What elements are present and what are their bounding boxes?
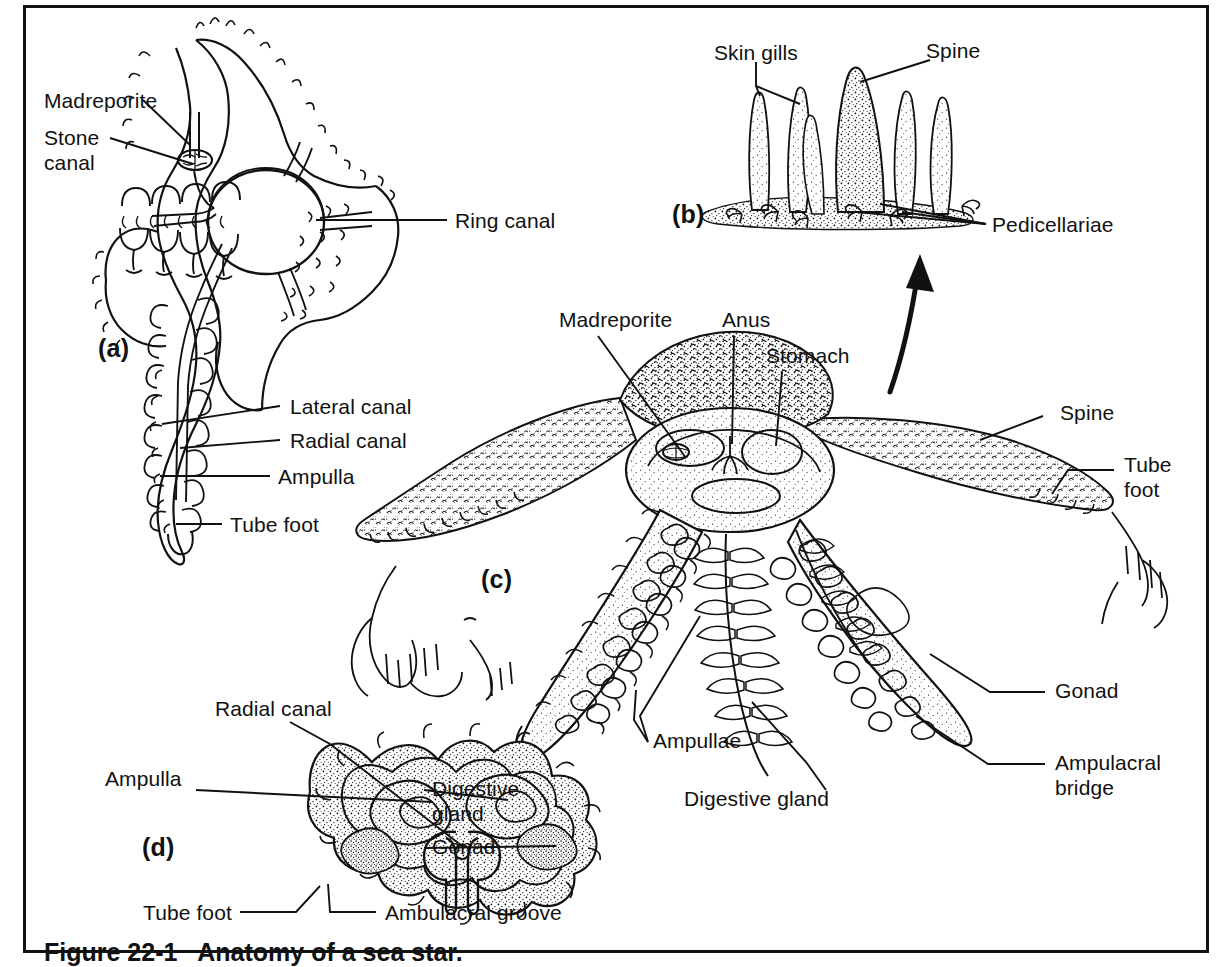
figure-caption: Figure 22-1 Anatomy of a sea star.	[44, 938, 463, 967]
label-tube-foot-d: Tube foot	[143, 900, 232, 925]
label-spine-c: Spine	[1060, 400, 1114, 425]
label-tube-foot-c: Tube foot	[1124, 452, 1172, 502]
label-ambulacral-groove-d: Ambulacral groove	[385, 900, 562, 925]
label-anus-c: Anus	[722, 307, 770, 332]
panel-a-tag: (a)	[98, 334, 129, 363]
panel-a-leaders	[110, 100, 447, 524]
label-stone-canal-a: Stone canal	[44, 125, 99, 175]
label-gonad-d: Gonad	[432, 834, 496, 859]
panel-d-tag: (d)	[142, 833, 175, 862]
label-ampulla-a: Ampulla	[278, 464, 355, 489]
panel-b-tag: (b)	[672, 200, 705, 229]
label-skin-gills-b: Skin gills	[714, 40, 798, 65]
panel-c-tag: (c)	[481, 565, 512, 594]
label-digestive-gland-d: Digestive gland	[432, 776, 519, 826]
label-tube-foot-a: Tube foot	[230, 512, 319, 537]
label-ampulla-d: Ampulla	[105, 766, 182, 791]
label-madreporite-c: Madreporite	[559, 307, 672, 332]
label-gonad-c: Gonad	[1055, 678, 1119, 703]
label-ampullae-c: Ampullae	[653, 728, 741, 753]
label-madreporite-a: Madreporite	[44, 88, 157, 113]
label-lateral-canal-a: Lateral canal	[290, 394, 412, 419]
label-ampulacral-bridge-c: Ampulacral bridge	[1055, 750, 1161, 800]
label-digestive-gland-c: Digestive gland	[684, 786, 829, 811]
label-pedicellariae-b: Pedicellariae	[992, 212, 1114, 237]
label-radial-canal-d: Radial canal	[215, 696, 332, 721]
label-radial-canal-a: Radial canal	[290, 428, 407, 453]
label-ring-canal-a: Ring canal	[455, 208, 555, 233]
label-stomach-c: Stomach	[766, 343, 850, 368]
label-spine-b: Spine	[926, 38, 980, 63]
